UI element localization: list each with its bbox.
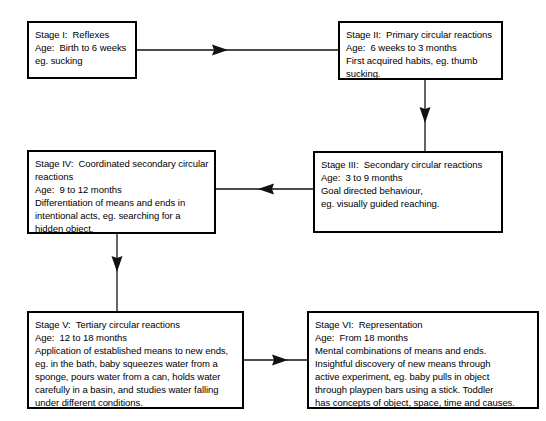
- node-stage-3-line-2: Age: 3 to 9 months: [321, 171, 495, 184]
- node-stage-1-line-2: Age: Birth to 6 weeks: [35, 41, 129, 54]
- node-stage-6: Stage VI: Representation Age: From 18 mo…: [307, 311, 539, 409]
- node-stage-3-line-3: Goal directed behaviour,: [321, 184, 495, 197]
- node-stage-1: Stage I: Reflexes Age: Birth to 6 weeks …: [27, 21, 137, 79]
- node-stage-5: Stage V: Tertiary circular reactions Age…: [27, 311, 244, 409]
- connector-stage-2-to-stage-3: [420, 80, 431, 151]
- node-stage-6-line-5: active experiment, eg. baby pulls in obj…: [315, 370, 531, 383]
- node-stage-5-line-3: Application of established means to new …: [35, 344, 236, 357]
- connector-stage-4-to-stage-5: [112, 234, 123, 311]
- connector-stage-5-to-stage-6: [244, 355, 307, 366]
- node-stage-4-line-2: reactions: [35, 170, 208, 183]
- node-stage-3-line-1: Stage III: Secondary circular reactions: [321, 158, 495, 171]
- node-stage-5-line-7: under different conditions.: [35, 396, 236, 409]
- node-stage-4-line-5: intentional acts, eg. searching for a: [35, 209, 208, 222]
- node-stage-5-line-5: sponge, pours water from a can, holds wa…: [35, 370, 236, 383]
- node-stage-4-line-6: hidden object.: [35, 222, 208, 235]
- node-stage-4: Stage IV: Coordinated secondary circular…: [27, 150, 216, 234]
- node-stage-6-line-6: through playpen bars using a stick. Todd…: [315, 383, 531, 396]
- node-stage-2-line-1: Stage II: Primary circular reactions: [346, 28, 495, 41]
- node-stage-2-line-3: First acquired habits, eg. thumb: [346, 54, 495, 67]
- node-stage-6-line-1: Stage VI: Representation: [315, 318, 531, 331]
- sensorimotor-stages-diagram: Stage I: Reflexes Age: Birth to 6 weeks …: [0, 0, 546, 421]
- node-stage-1-line-3: eg. sucking: [35, 54, 129, 67]
- node-stage-5-line-2: Age: 12 to 18 months: [35, 331, 236, 344]
- node-stage-5-line-1: Stage V: Tertiary circular reactions: [35, 318, 236, 331]
- node-stage-4-line-3: Age: 9 to 12 months: [35, 183, 208, 196]
- node-stage-6-line-4: Insightful discovery of new means throug…: [315, 357, 531, 370]
- node-stage-3-line-4: eg. visually guided reaching.: [321, 197, 495, 210]
- node-stage-2: Stage II: Primary circular reactions Age…: [338, 21, 503, 80]
- node-stage-2-line-2: Age: 6 weeks to 3 months: [346, 41, 495, 54]
- connector-stage-1-to-stage-2: [137, 45, 338, 56]
- node-stage-3: Stage III: Secondary circular reactions …: [313, 151, 503, 233]
- node-stage-5-line-4: eg. in the bath, baby squeezes water fro…: [35, 357, 236, 370]
- connector-stage-3-to-stage-4: [216, 184, 313, 195]
- node-stage-6-line-2: Age: From 18 months: [315, 331, 531, 344]
- node-stage-4-line-4: Differentiation of means and ends in: [35, 196, 208, 209]
- node-stage-2-line-4: sucking.: [346, 67, 495, 80]
- node-stage-1-line-1: Stage I: Reflexes: [35, 28, 129, 41]
- node-stage-4-line-1: Stage IV: Coordinated secondary circular: [35, 157, 208, 170]
- node-stage-6-line-7: has concepts of object, space, time and …: [315, 396, 531, 409]
- node-stage-6-line-3: Mental combinations of means and ends.: [315, 344, 531, 357]
- node-stage-5-line-6: carefully in a basin, and studies water …: [35, 383, 236, 396]
